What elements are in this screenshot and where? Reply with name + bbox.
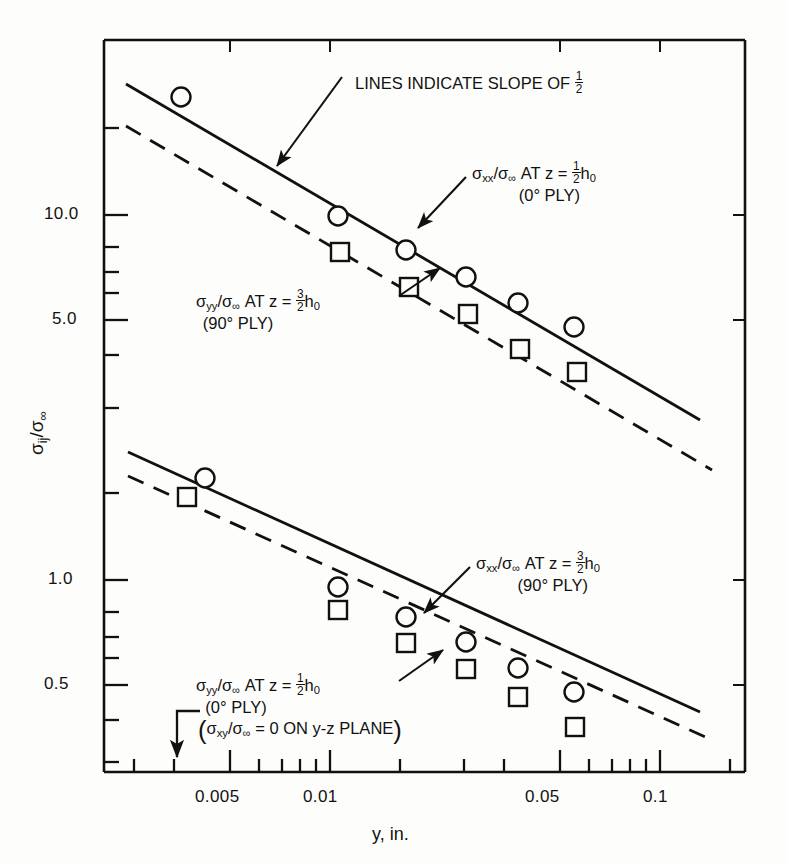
y-axis-ticks xyxy=(104,128,128,762)
upper-dashed-frac-den: 2 xyxy=(296,301,305,313)
y-tick-label-5: 5.0 xyxy=(52,309,77,329)
upper-solid-denom-sub: ∞ xyxy=(508,172,516,184)
y-axis-title-sigma: σ xyxy=(26,443,47,455)
shear-note-open-paren: ( xyxy=(198,716,207,744)
upper-dashed-fraction: 3 2 xyxy=(296,288,305,313)
lower-dashed-at: AT z = xyxy=(245,676,292,694)
upper-solid-h: h xyxy=(581,164,590,182)
upper-dashed-denom-sub: ∞ xyxy=(232,300,240,312)
y-axis-title: σij/σ∞ xyxy=(26,411,50,455)
lower-dashed-h: h xyxy=(305,676,314,694)
upper-solid-frac-den: 2 xyxy=(572,173,581,185)
shear-note-sigma: σ xyxy=(207,719,217,737)
lower-solid-denom-sigma: σ xyxy=(502,554,512,572)
upper-solid-h-sub: 0 xyxy=(590,172,596,184)
y-axis-right-ticks xyxy=(733,215,745,685)
figure-container: 10.0 5.0 1.0 0.5 0.005 0.01 0.05 0.1 y, … xyxy=(0,0,788,863)
upper-solid-sub: xx xyxy=(482,172,493,184)
lower-solid-sub: xx xyxy=(486,562,497,574)
lower-dashed-denom-sub: ∞ xyxy=(232,684,240,696)
upper-solid-fraction: 1 2 xyxy=(572,160,581,185)
y-axis-title-slash: / xyxy=(26,432,47,437)
lower-dashed-frac-den: 2 xyxy=(296,685,305,697)
shear-note-equals: = 0 ON y-z PLANE xyxy=(255,719,393,737)
upper-dashed-denom-sigma: σ xyxy=(222,292,232,310)
upper-solid-ply: (0° PLY) xyxy=(472,185,596,206)
upper-dashed-h-sub: 0 xyxy=(314,300,320,312)
upper-solid-at: AT z = xyxy=(521,164,568,182)
x-axis-ticks xyxy=(134,750,730,772)
x-tick-label-0-01: 0.01 xyxy=(303,787,338,807)
annotation-lower-solid: σxx/σ∞ AT z = 3 2 h0 (90° PLY) xyxy=(476,550,600,596)
lower-solid-denom-sub: ∞ xyxy=(512,562,520,574)
annotation-upper-solid: σxx/σ∞ AT z = 1 2 h0 (0° PLY) xyxy=(472,160,596,206)
shear-note-denom-sub: ∞ xyxy=(243,727,251,739)
lower-solid-ply: (90° PLY) xyxy=(476,575,600,596)
slope-note-leader xyxy=(277,77,342,166)
upper-dashed-at: AT z = xyxy=(245,292,292,310)
shear-note-denom-sigma: σ xyxy=(233,719,243,737)
lower-solid-fraction: 3 2 xyxy=(576,550,585,575)
upper-square-markers xyxy=(331,243,586,381)
shear-note-sub: xy xyxy=(217,727,228,739)
x-axis-top-ticks xyxy=(230,40,660,52)
x-tick-label-0-1: 0.1 xyxy=(643,787,668,807)
lower-dashed-leader xyxy=(399,650,443,681)
annotation-lower-dashed: σyy/σ∞ AT z = 1 2 h0 (0° PLY) xyxy=(196,672,320,718)
y-axis-title-infinity: ∞ xyxy=(35,411,50,420)
annotation-upper-dashed: σyy/σ∞ AT z = 3 2 h0 (90° PLY) xyxy=(196,288,320,334)
y-axis-title-ij: ij xyxy=(35,438,50,444)
upper-dashed-h: h xyxy=(305,292,314,310)
x-tick-label-0-005: 0.005 xyxy=(195,787,240,807)
lower-solid-at: AT z = xyxy=(525,554,572,572)
annotation-slope-note: LINES INDICATE SLOPE OF 1 2 xyxy=(355,70,583,95)
annotation-shear-note: (σxy/σ∞ = 0 ON y-z PLANE) xyxy=(198,718,402,740)
slope-note-fraction: 1 2 xyxy=(575,70,584,95)
lower-solid-sigma: σ xyxy=(476,554,486,572)
upper-solid-sigma: σ xyxy=(472,164,482,182)
upper-dashed-ply: (90° PLY) xyxy=(196,313,320,334)
y-tick-label-10: 10.0 xyxy=(44,204,79,224)
lower-solid-h: h xyxy=(585,554,594,572)
y-tick-label-1: 1.0 xyxy=(48,569,73,589)
shear-note-close-paren: ) xyxy=(393,716,402,744)
upper-solid-leader xyxy=(418,177,466,228)
slope-fraction-denominator: 2 xyxy=(575,83,584,95)
upper-dashed-sigma: σ xyxy=(196,292,206,310)
lower-solid-frac-den: 2 xyxy=(576,563,585,575)
lower-dashed-h-sub: 0 xyxy=(314,684,320,696)
y-tick-label-0-5: 0.5 xyxy=(44,674,69,694)
x-axis-title: y, in. xyxy=(372,824,409,845)
lower-dashed-sub: yy xyxy=(206,684,217,696)
lower-solid-h-sub: 0 xyxy=(594,562,600,574)
lower-dashed-ply: (0° PLY) xyxy=(196,697,320,718)
x-tick-label-0-05: 0.05 xyxy=(525,787,560,807)
upper-solid-denom-sigma: σ xyxy=(498,164,508,182)
lower-dashed-fraction: 1 2 xyxy=(296,672,305,697)
upper-dashed-sub: yy xyxy=(206,300,217,312)
lower-dashed-denom-sigma: σ xyxy=(222,676,232,694)
y-axis-title-sigma2: σ xyxy=(26,421,47,433)
slope-note-text: LINES INDICATE SLOPE OF xyxy=(355,74,570,92)
lower-dashed-sigma: σ xyxy=(196,676,206,694)
